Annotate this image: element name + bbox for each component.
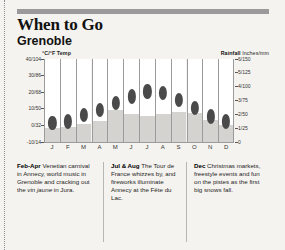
- climate-chart: °C/°F Temp Rainfall Inches/mm -10/140/32…: [17, 50, 269, 155]
- rainfall-bar: [188, 113, 203, 142]
- x-tick-month: D: [224, 144, 228, 150]
- seasonal-notes: Feb-Apr Venetian carnival in Annecy, wor…: [17, 162, 269, 242]
- x-tick-month: J: [145, 144, 148, 150]
- note-lead: Jul & Aug: [111, 162, 140, 169]
- y-tick-rainfall: 4/100: [238, 84, 251, 89]
- y-axis-temperature: -10/140/3210/5020/6830/8640/104: [17, 59, 44, 142]
- temperature-marker: [143, 84, 151, 98]
- note-italic-term: vin jaune: [27, 186, 52, 193]
- y-tick-temp: 40/104: [26, 57, 41, 62]
- plot-area: [44, 59, 234, 142]
- x-axis-month-labels: JFMAMJJASOND: [44, 143, 234, 154]
- temperature-marker: [175, 93, 183, 107]
- rainfall-bar: [61, 127, 76, 142]
- x-tick-month: J: [50, 144, 53, 150]
- month-column: [92, 59, 108, 142]
- rainfall-bar: [124, 114, 139, 142]
- x-tick-month: F: [66, 144, 70, 150]
- x-tick-month: J: [130, 144, 133, 150]
- note-jul-aug: Jul & Aug The Tour de France whizzes by,…: [103, 162, 186, 242]
- page-subtitle: Grenoble: [17, 35, 72, 48]
- y-tick-rainfall: 2/50: [238, 112, 248, 117]
- y-tick-temp: 10/50: [28, 106, 41, 111]
- y-tick-temp: 20/68: [28, 90, 41, 95]
- month-column: [155, 59, 171, 142]
- rainfall-bar: [203, 120, 218, 142]
- rainfall-bar: [140, 116, 155, 142]
- rainfall-bar: [172, 112, 187, 142]
- month-column: [76, 59, 92, 142]
- rainfall-bar: [108, 110, 123, 142]
- x-tick-month: N: [208, 144, 212, 150]
- month-column: [139, 59, 155, 142]
- note-lead: Dec: [194, 162, 205, 169]
- rainfall-bar: [45, 128, 60, 142]
- month-column: [44, 59, 60, 142]
- temperature-marker: [112, 96, 120, 110]
- note-dec: Dec Christmas markets, freestyle events …: [186, 162, 269, 242]
- x-tick-month: A: [161, 144, 165, 150]
- y-tick-temp: 30/86: [28, 73, 41, 78]
- month-column: [187, 59, 203, 142]
- y-axis-rainfall: 01/252/503/754/1005/1256/150: [235, 59, 271, 142]
- page-title: When to Go: [17, 16, 103, 34]
- y-tick-rainfall: 0: [238, 140, 241, 145]
- month-column: [171, 59, 187, 142]
- temperature-marker: [96, 103, 104, 117]
- temperature-marker: [80, 108, 88, 122]
- legend-temp-label: °C/°F Temp: [42, 50, 71, 56]
- x-tick-month: M: [113, 144, 118, 150]
- top-rule-bar: [17, 9, 269, 14]
- rainfall-bar: [77, 124, 92, 142]
- x-tick-month: S: [177, 144, 181, 150]
- x-tick-month: O: [192, 144, 197, 150]
- month-column: [123, 59, 139, 142]
- y-tick-rainfall: 5/125: [238, 70, 251, 75]
- note-lead: Feb-Apr: [17, 162, 41, 169]
- month-column: [202, 59, 218, 142]
- x-tick-month: A: [97, 144, 101, 150]
- x-tick-month: M: [81, 144, 86, 150]
- month-column: [60, 59, 76, 142]
- temperature-marker: [127, 89, 135, 103]
- y-tick-rainfall: 1/25: [238, 126, 248, 131]
- y-tick-temp: -10/14: [27, 140, 41, 145]
- rainfall-bar: [93, 121, 108, 142]
- rainfall-bar: [156, 114, 171, 142]
- y-tick-rainfall: 6/150: [238, 57, 251, 62]
- note-feb-apr: Feb-Apr Venetian carnival in Annecy, wor…: [17, 162, 103, 242]
- page-cut-line: [4, 0, 5, 250]
- month-column: [107, 59, 123, 142]
- temperature-marker: [159, 86, 167, 100]
- guide-page: When to Go Grenoble °C/°F Temp Rainfall …: [0, 0, 285, 250]
- y-tick-rainfall: 3/75: [238, 98, 248, 103]
- month-column: [218, 59, 234, 142]
- y-tick-temp: 0/32: [31, 123, 41, 128]
